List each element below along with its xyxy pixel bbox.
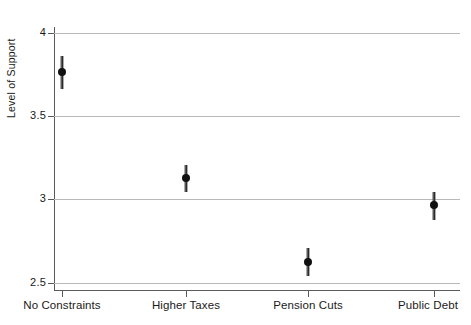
y-tick-label-3-5: 3.5 — [20, 109, 46, 121]
series-level-of-support — [54, 33, 460, 290]
x-tick-mark-higher-taxes — [186, 290, 187, 297]
x-tick-label-no-constraints: No Constraints — [23, 299, 100, 311]
data-point-pension-cuts — [304, 258, 312, 266]
x-tick-label-public-debt: Public Debt — [398, 299, 458, 311]
data-point-no-constraints — [58, 68, 66, 76]
x-tick-mark-no-constraints — [62, 290, 63, 297]
y-tick-label-4: 4 — [28, 26, 46, 38]
y-tick-label-3: 3 — [28, 192, 46, 204]
x-tick-label-pension-cuts: Pension Cuts — [273, 299, 343, 311]
data-point-public-debt — [430, 201, 438, 209]
plot-area — [54, 33, 460, 290]
y-tick-label-2-5: 2.5 — [20, 276, 46, 288]
x-tick-label-higher-taxes: Higher Taxes — [152, 299, 220, 311]
x-tick-mark-public-debt — [434, 290, 435, 297]
x-tick-mark-pension-cuts — [308, 290, 309, 297]
x-axis-line — [54, 290, 460, 291]
data-point-higher-taxes — [182, 174, 190, 182]
y-axis-title: Level of Support — [5, 100, 17, 118]
chart-figure: Level of Support 4 3.5 3 2.5 — [0, 0, 471, 325]
